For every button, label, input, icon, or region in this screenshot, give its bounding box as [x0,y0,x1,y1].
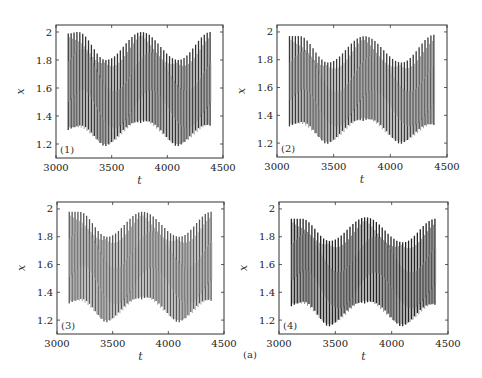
y-tick-label: 1.2 [257,138,273,149]
panel-label: (3) [61,320,75,331]
x-tick-label: 3500 [323,338,348,349]
data-trace [68,32,211,146]
panel-label: (1) [60,144,74,155]
x-axis-label: t [138,350,143,363]
y-tick-label: 1.4 [257,110,273,121]
x-tick-label: 4500 [434,161,459,172]
panel-1: 30003500400045001.21.41.61.82tx(1) [14,25,236,187]
y-tick-label: 1.8 [259,231,275,242]
y-tick-label: 1.8 [257,54,273,65]
panel-label: (2) [281,143,295,154]
panel-4: 30003500400045001.21.41.61.82tx(4) [237,202,461,363]
x-tick-label: 4500 [211,338,236,349]
y-tick-label: 1.8 [36,55,52,66]
y-tick-label: 1.6 [36,83,52,94]
data-trace [291,217,435,326]
x-tick-label: 3000 [43,162,68,173]
x-tick-label: 4500 [435,338,460,349]
x-tick-label: 4500 [210,162,235,173]
panel-2: 30003500400045001.21.41.61.82tx(2) [235,25,460,186]
y-axis-label: x [235,87,248,94]
data-trace [289,35,434,144]
y-tick-label: 2 [269,203,275,214]
y-tick-label: 1.6 [259,259,275,270]
x-tick-label: 4000 [156,338,181,349]
data-trace [69,212,212,322]
x-axis-label: t [361,350,366,363]
x-tick-label: 3000 [44,338,69,349]
y-tick-label: 2 [47,203,53,214]
y-tick-label: 1.8 [37,231,53,242]
figure: 30003500400045001.21.41.61.82tx(1)300035… [0,0,482,378]
x-tick-label: 4000 [155,162,180,173]
y-tick-label: 1.4 [259,287,275,298]
x-tick-label: 3000 [264,161,289,172]
y-tick-label: 2 [46,27,52,38]
y-axis-label: x [15,264,28,271]
panel-label: (4) [283,320,297,331]
x-tick-label: 3500 [99,162,124,173]
y-tick-label: 1.2 [37,315,53,326]
y-tick-label: 1.4 [37,287,53,298]
y-tick-label: 1.2 [259,315,275,326]
y-axis-label: x [14,88,27,95]
x-tick-label: 4000 [378,161,403,172]
x-tick-label: 3500 [321,161,346,172]
y-tick-label: 1.6 [37,259,53,270]
y-tick-label: 1.2 [36,139,52,150]
y-tick-label: 1.6 [257,82,273,93]
x-axis-label: t [360,173,365,186]
y-tick-label: 2 [267,26,273,37]
x-axis-label: t [137,174,142,187]
x-tick-label: 3500 [100,338,125,349]
y-tick-label: 1.4 [36,111,52,122]
x-tick-label: 4000 [379,338,404,349]
x-tick-label: 3000 [266,338,291,349]
figure-label: (a) [243,349,257,360]
y-axis-label: x [237,264,250,271]
panel-3: 30003500400045001.21.41.61.82tx(3) [15,202,237,363]
